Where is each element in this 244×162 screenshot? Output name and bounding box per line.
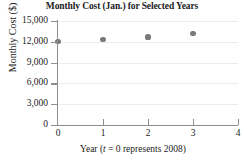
y-tick-mark bbox=[51, 42, 57, 43]
x-tick-mark bbox=[238, 119, 239, 125]
plot-area bbox=[58, 21, 238, 125]
gridline bbox=[58, 42, 238, 43]
x-tick-label: 3 bbox=[181, 128, 205, 138]
y-tick-mark bbox=[51, 104, 57, 105]
x-tick-label: 2 bbox=[136, 128, 160, 138]
y-tick-mark bbox=[51, 83, 57, 84]
data-point bbox=[145, 34, 150, 39]
y-tick-label: 6,000 bbox=[2, 77, 48, 87]
gridline bbox=[58, 83, 238, 84]
y-tick-mark bbox=[51, 21, 57, 22]
chart-title: Monthly Cost (Jan.) for Selected Years bbox=[0, 1, 244, 11]
x-tick-mark bbox=[193, 119, 194, 125]
gridline bbox=[58, 104, 238, 105]
x-tick-label: 0 bbox=[46, 128, 70, 138]
x-tick-label: 4 bbox=[226, 128, 244, 138]
gridline bbox=[58, 63, 238, 64]
y-tick-label: 9,000 bbox=[2, 57, 48, 67]
x-axis-title-suffix: = 0 represents 2008) bbox=[106, 144, 186, 154]
y-tick-mark bbox=[51, 63, 57, 64]
x-tick-mark bbox=[148, 119, 149, 125]
y-tick-label: 12,000 bbox=[2, 36, 48, 46]
y-tick-mark bbox=[51, 125, 57, 126]
chart-container: Monthly Cost (Jan.) for Selected Years M… bbox=[0, 0, 244, 162]
y-tick-label: 15,000 bbox=[2, 15, 48, 25]
data-point bbox=[190, 31, 195, 36]
x-axis-line bbox=[57, 125, 238, 126]
data-point bbox=[100, 37, 105, 42]
y-tick-label: 0 bbox=[2, 119, 48, 129]
x-axis-title-prefix: Year ( bbox=[80, 144, 103, 154]
y-axis-line bbox=[57, 20, 58, 126]
x-tick-mark bbox=[103, 119, 104, 125]
x-tick-label: 1 bbox=[91, 128, 115, 138]
gridline bbox=[58, 21, 238, 22]
x-axis-title: Year (t = 0 represents 2008) bbox=[28, 144, 238, 154]
y-tick-label: 3,000 bbox=[2, 98, 48, 108]
